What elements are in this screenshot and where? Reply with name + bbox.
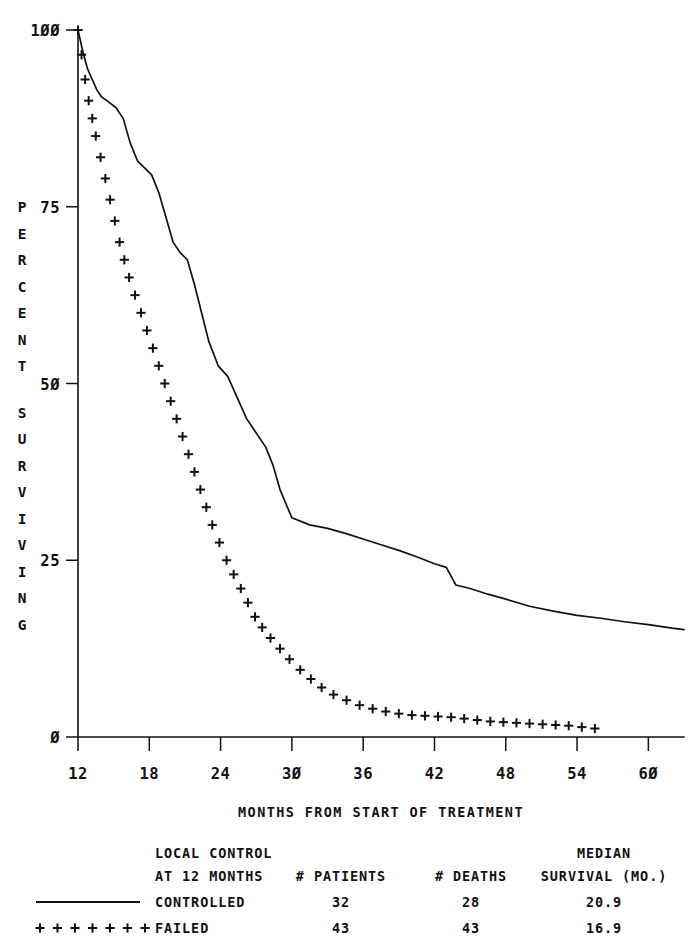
legend-row-failed-deaths: 43 (462, 920, 480, 936)
y-axis-label-char: S (18, 405, 27, 421)
y-tick-label: Ø (49, 729, 60, 747)
legend-header-patients: # PATIENTS (296, 868, 386, 884)
y-axis-label-char: E (18, 305, 27, 321)
legend-row-controlled-deaths: 28 (462, 894, 480, 910)
y-axis-label-char: V (18, 484, 27, 500)
y-axis-label-char: E (18, 226, 27, 242)
x-tick-label: 36 (353, 765, 373, 783)
y-tick-label: 75 (40, 199, 60, 217)
y-tick-label: 5Ø (40, 376, 60, 394)
legend-header-survival-mo: SURVIVAL (MO.) (541, 868, 667, 884)
x-tick-label: 42 (425, 765, 445, 783)
y-axis-label-char: C (18, 279, 27, 295)
legend-header-median: MEDIAN (577, 845, 631, 861)
y-tick-label: 1ØØ (31, 22, 61, 40)
y-axis-label-char: R (18, 252, 27, 268)
legend-row-failed-group: FAILED (155, 920, 209, 936)
y-tick-label: 25 (40, 552, 60, 570)
y-axis-label: PERCENTSURVIVING (18, 199, 27, 633)
y-axis-label-char: U (18, 431, 27, 447)
x-tick-label: 6Ø (639, 765, 659, 783)
y-axis-label-char: I (18, 564, 27, 580)
legend-header-deaths: # DEATHS (435, 868, 507, 884)
legend-row-controlled-median: 20.9 (586, 894, 622, 910)
y-axis-label-char: I (18, 511, 27, 527)
x-tick-label: 3Ø (282, 765, 302, 783)
y-axis-label-char: G (18, 617, 27, 633)
survival-chart-figure: PERCENTSURVIVING Ø255Ø751ØØ 1218243Ø3642… (0, 0, 693, 943)
legend-row-failed-median: 16.9 (586, 920, 622, 936)
figure-background (0, 0, 693, 943)
x-tick-label: 48 (496, 765, 516, 783)
x-tick-label: 18 (139, 765, 159, 783)
x-tick-label: 54 (567, 765, 587, 783)
y-axis-label-char: N (18, 590, 27, 606)
x-axis-title: MONTHS FROM START OF TREATMENT (238, 804, 524, 820)
legend-row-failed-patients: 43 (332, 920, 350, 936)
x-tick-label: 24 (211, 765, 231, 783)
legend-row-controlled-group: CONTROLLED (155, 894, 245, 910)
legend-header-local-control: LOCAL CONTROL (155, 845, 272, 861)
y-axis-label-char: V (18, 537, 27, 553)
legend-row-controlled-patients: 32 (332, 894, 350, 910)
y-axis-label-char: R (18, 458, 27, 474)
legend-header-at-12-months: AT 12 MONTHS (155, 868, 263, 884)
y-axis-label-char: N (18, 332, 27, 348)
x-tick-label: 12 (68, 765, 88, 783)
y-axis-label-char: P (18, 199, 27, 215)
y-axis-label-char: T (18, 358, 27, 374)
